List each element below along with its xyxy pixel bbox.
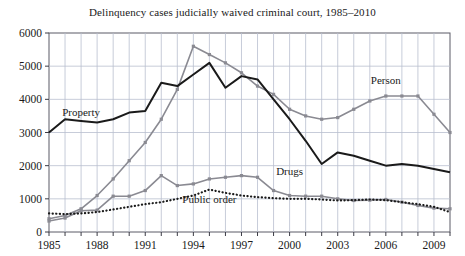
data-point-marker [352, 108, 355, 111]
data-point-marker [448, 131, 451, 134]
data-point-marker [288, 194, 291, 197]
data-point-marker [176, 88, 179, 91]
data-point-marker [192, 45, 195, 48]
data-point-marker [320, 118, 323, 121]
series-label-public-order: Public order [182, 193, 236, 205]
data-point-marker [256, 84, 259, 87]
data-point-marker [304, 195, 307, 198]
x-tick-label: 2006 [374, 239, 397, 251]
data-point-marker [384, 94, 387, 97]
data-point-marker [416, 94, 419, 97]
data-point-marker [47, 219, 50, 222]
data-point-marker [304, 114, 307, 117]
x-tick-label: 1991 [134, 239, 157, 251]
y-tick-label: 0 [36, 226, 42, 238]
series-label-drugs: Drugs [276, 165, 303, 177]
x-tick-label: 2009 [422, 239, 445, 251]
data-point-marker [63, 216, 66, 219]
data-point-marker [208, 53, 211, 56]
data-point-marker [432, 113, 435, 116]
series-label-property: Property [62, 106, 100, 118]
data-point-marker [176, 184, 179, 187]
data-point-marker [272, 189, 275, 192]
y-tick-label: 6000 [19, 27, 42, 39]
data-point-marker [336, 116, 339, 119]
data-point-marker [208, 177, 211, 180]
x-axis-tick-labels: 198519881991199419972000200320062009 [38, 239, 446, 251]
data-point-marker [144, 141, 147, 144]
data-point-marker [320, 195, 323, 198]
data-point-marker [368, 99, 371, 102]
chart-page: Delinquency cases judicially waived crim… [0, 0, 465, 256]
data-point-marker [400, 94, 403, 97]
y-tick-label: 1000 [19, 193, 42, 205]
data-point-marker [112, 177, 115, 180]
data-point-marker [160, 174, 163, 177]
data-point-marker [240, 174, 243, 177]
data-point-marker [192, 182, 195, 185]
data-point-marker [288, 108, 291, 111]
y-tick-label: 2000 [19, 160, 42, 172]
data-point-marker [256, 176, 259, 179]
data-point-marker [128, 195, 131, 198]
y-tick-label: 4000 [19, 93, 42, 105]
data-point-marker [79, 209, 82, 212]
x-tick-label: 1997 [230, 239, 253, 251]
data-point-marker [160, 118, 163, 121]
data-point-marker [272, 93, 275, 96]
data-point-marker [240, 71, 243, 74]
x-tick-label: 2000 [278, 239, 301, 251]
series-label-person: Person [371, 74, 401, 86]
x-axis-ticks [49, 232, 450, 236]
line-chart: 0100020003000400050006000 19851988199119… [0, 0, 465, 256]
y-axis-tick-labels: 0100020003000400050006000 [19, 27, 42, 238]
data-point-marker [224, 176, 227, 179]
y-tick-label: 3000 [19, 127, 42, 139]
x-tick-label: 1985 [38, 239, 61, 251]
data-point-marker [448, 207, 451, 210]
x-tick-label: 1988 [86, 239, 109, 251]
data-point-marker [112, 195, 115, 198]
y-axis-ticks [45, 33, 49, 232]
data-point-marker [224, 61, 227, 64]
y-tick-label: 5000 [19, 60, 42, 72]
data-point-marker [128, 159, 131, 162]
data-point-marker [96, 194, 99, 197]
x-tick-label: 2003 [326, 239, 349, 251]
data-point-marker [144, 189, 147, 192]
x-tick-label: 1994 [182, 239, 205, 251]
